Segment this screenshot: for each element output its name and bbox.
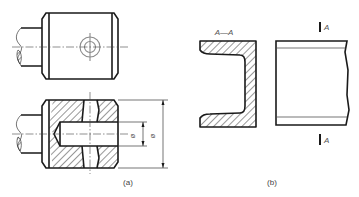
- inner-diameter-label: ø: [128, 133, 137, 138]
- section-hatch-left-lower: [49, 134, 84, 168]
- panel-a-front-view: [12, 13, 128, 79]
- section-label: A—A: [214, 28, 234, 37]
- section-hatch-left-upper: [49, 100, 84, 134]
- cut-mark-top-label: A: [323, 23, 329, 32]
- panel-b-side-view: A A: [276, 22, 349, 145]
- technical-drawing: ø ø (a) A—A A A (b): [0, 0, 359, 197]
- panel-a-section-view: ø ø: [12, 92, 168, 174]
- outer-diameter-label: ø: [148, 133, 157, 138]
- side-view-outline: [276, 41, 349, 125]
- caption-a: (a): [123, 178, 133, 187]
- channel-section: [200, 41, 256, 127]
- cut-mark-bottom-label: A: [323, 136, 329, 145]
- section-hatch-right-lower: [97, 146, 118, 168]
- caption-b: (b): [267, 178, 277, 187]
- panel-b-section-a-a: A—A: [200, 28, 256, 127]
- section-hatch-right-upper: [97, 100, 118, 122]
